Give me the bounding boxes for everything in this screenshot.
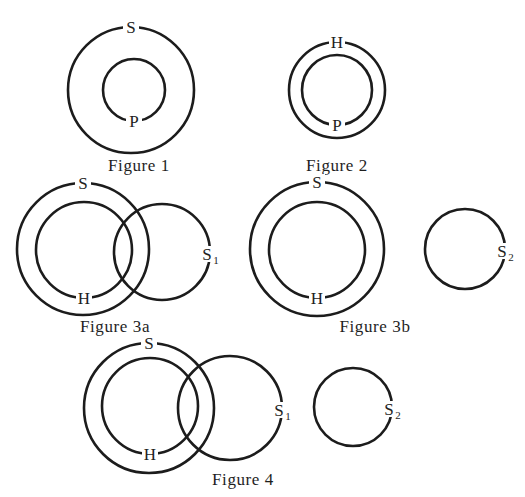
set-label-s1: S xyxy=(202,245,211,264)
circle-s xyxy=(68,27,194,153)
set-label-s: S xyxy=(126,18,135,37)
circle-s2 xyxy=(314,368,392,446)
set-label-p: P xyxy=(129,112,138,131)
set-label-subscript: 2 xyxy=(508,251,514,263)
circle-h xyxy=(102,358,198,454)
euler-diagram-canvas: SPFigure 1HPFigure 2SHS1Figure 3aSHS2Fig… xyxy=(0,0,525,497)
figure-2: HPFigure 2 xyxy=(289,33,385,175)
figure-4: SHS1S2Figure 4 xyxy=(84,334,403,489)
set-label-h: H xyxy=(331,33,343,52)
figure-1: SPFigure 1 xyxy=(68,18,194,175)
set-label-s: S xyxy=(312,173,321,192)
set-label-s1: S xyxy=(274,401,283,420)
circle-h xyxy=(269,202,365,298)
figure-caption: Figure 1 xyxy=(108,156,170,175)
set-label-s2: S xyxy=(497,242,506,261)
euler-circles-diagram: SPFigure 1HPFigure 2SHS1Figure 3aSHS2Fig… xyxy=(0,0,525,497)
figure-3a: SHS1Figure 3a xyxy=(17,174,221,336)
set-label-subscript: 1 xyxy=(213,254,219,266)
set-label-p: P xyxy=(332,116,341,135)
circle-h xyxy=(36,202,132,298)
circle-p xyxy=(302,55,372,125)
circle-s1 xyxy=(114,204,210,300)
figure-caption: Figure 4 xyxy=(212,470,274,489)
circle-s1 xyxy=(178,356,282,460)
figure-caption: Figure 3a xyxy=(80,317,150,336)
set-label-h: H xyxy=(311,289,323,308)
set-label-h: H xyxy=(78,289,90,308)
figure-caption: Figure 3b xyxy=(339,317,410,336)
set-label-s: S xyxy=(78,174,87,193)
set-label-subscript: 1 xyxy=(285,410,291,422)
set-label-s2: S xyxy=(384,400,393,419)
circle-s2 xyxy=(425,209,505,289)
figure-3b: SHS2Figure 3b xyxy=(250,173,516,336)
set-label-subscript: 2 xyxy=(395,409,401,421)
set-label-h: H xyxy=(144,445,156,464)
set-label-s: S xyxy=(144,334,153,353)
